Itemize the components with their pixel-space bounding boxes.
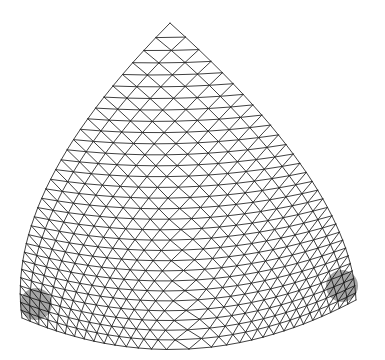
mesh-edges [20,23,356,350]
corner-shade-left [20,288,52,320]
mesh-figure [0,0,385,360]
triangular-mesh [0,0,385,360]
corner-shade-right [326,270,358,302]
